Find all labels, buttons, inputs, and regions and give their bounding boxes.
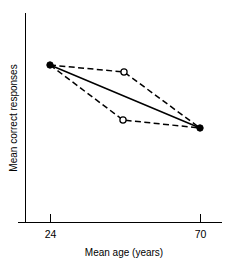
data-point-marker-open-upper xyxy=(121,69,127,75)
chart-figure: 24 70 Mean age (years) Mean correct resp… xyxy=(0,0,242,265)
x-axis-title: Mean age (years) xyxy=(85,247,163,258)
y-axis-title: Mean correct responses xyxy=(8,64,19,171)
plot-canvas: 24 70 Mean age (years) Mean correct resp… xyxy=(0,0,242,265)
data-point-marker-filled-right xyxy=(197,125,203,131)
data-point-marker-filled-left xyxy=(47,62,53,68)
data-point-marker-open-lower xyxy=(120,117,126,123)
x-tick-label-24: 24 xyxy=(45,228,57,240)
x-tick-label-70: 70 xyxy=(195,228,207,240)
